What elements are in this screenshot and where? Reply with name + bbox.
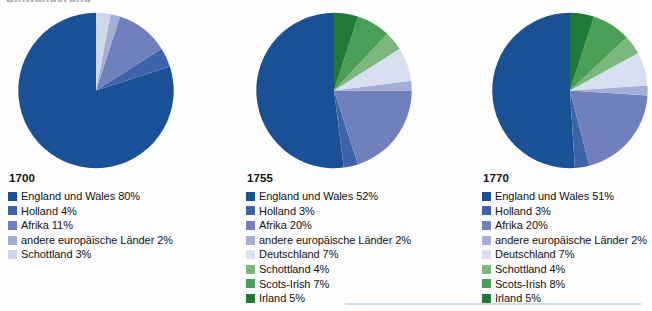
legend-item-label: Scots-Irish 8% (495, 277, 565, 292)
legend-item-label: Deutschland 7% (495, 247, 574, 262)
pie-slice[interactable] (492, 13, 575, 168)
legend-item[interactable]: Scots-Irish 7% (246, 277, 451, 292)
legend-swatch-icon (246, 236, 255, 245)
legend-item[interactable]: Deutschland 7% (246, 247, 451, 262)
legend-item-label: Afrika 11% (21, 218, 73, 233)
legend-swatch-icon (246, 279, 255, 288)
legend-swatch-icon (246, 250, 255, 259)
legend-item[interactable]: Afrika 11% (8, 218, 213, 233)
pie-chart-1770 (488, 12, 652, 169)
pie-svg-1700 (14, 12, 178, 169)
legend-1755: 1755 England und Wales 52%Holland 3%Afri… (246, 172, 451, 306)
pie-svg-1755 (252, 12, 416, 169)
legend-swatch-icon (246, 221, 255, 230)
legend-swatch-icon (482, 279, 491, 288)
pie-svg-1770 (488, 12, 652, 169)
legend-item-label: England und Wales 80% (21, 189, 140, 204)
legend-title: 1770 (483, 172, 652, 184)
legend-item-label: Schottland 4% (259, 262, 329, 277)
legend-1700: 1700 England und Wales 80%Holland 4%Afri… (8, 172, 213, 262)
legend-swatch-icon (8, 250, 17, 259)
pie-chart-1700 (14, 12, 178, 169)
legend-item[interactable]: andere europäische Länder 2% (246, 233, 451, 248)
legend-item-label: Irland 5% (259, 291, 305, 306)
legend-item-label: Afrika 20% (495, 218, 548, 233)
legend-item[interactable]: Holland 4% (8, 204, 213, 219)
legend-item-label: andere europäische Länder 2% (495, 233, 647, 248)
pie-slice[interactable] (256, 13, 343, 168)
legend-item-label: Schottland 3% (21, 247, 91, 262)
legend-item-label: Deutschland 7% (259, 247, 338, 262)
legend-swatch-icon (8, 206, 17, 215)
legend-list: England und Wales 52%Holland 3%Afrika 20… (246, 189, 451, 306)
legend-swatch-icon (482, 250, 491, 259)
legend-title: 1755 (247, 172, 451, 184)
legend-item[interactable]: andere europäische Länder 2% (8, 233, 213, 248)
legend-swatch-icon (482, 192, 491, 201)
legend-item-label: England und Wales 52% (259, 189, 378, 204)
legend-swatch-icon (482, 236, 491, 245)
legend-swatch-icon (246, 265, 255, 274)
legend-item[interactable]: andere europäische Länder 2% (482, 233, 652, 248)
chart-panel-1700: 1700 England und Wales 80%Holland 4%Afri… (0, 0, 213, 311)
legend-item[interactable]: Holland 3% (246, 204, 451, 219)
legend-item-label: Scots-Irish 7% (259, 277, 329, 292)
legend-item[interactable]: Schottland 4% (482, 262, 652, 277)
legend-list: England und Wales 80%Holland 4%Afrika 11… (8, 189, 213, 262)
legend-item[interactable]: Afrika 20% (246, 218, 451, 233)
legend-item-label: Afrika 20% (259, 218, 312, 233)
legend-swatch-icon (8, 192, 17, 201)
legend-item[interactable]: Schottland 3% (8, 247, 213, 262)
pie-chart-1755 (252, 12, 416, 169)
legend-swatch-icon (8, 221, 17, 230)
legend-item[interactable]: Holland 3% (482, 204, 652, 219)
chart-panel-1755: 1755 England und Wales 52%Holland 3%Afri… (238, 0, 451, 311)
legend-item[interactable]: Afrika 20% (482, 218, 652, 233)
legend-item-label: andere europäische Länder 2% (259, 233, 411, 248)
legend-swatch-icon (8, 236, 17, 245)
legend-swatch-icon (482, 206, 491, 215)
chart-panel-1770: 1770 England und Wales 51%Holland 3%Afri… (474, 0, 652, 311)
legend-swatch-icon (482, 221, 491, 230)
legend-item[interactable]: Scots-Irish 8% (482, 277, 652, 292)
legend-swatch-icon (246, 294, 255, 303)
legend-item-label: andere europäische Länder 2% (21, 233, 173, 248)
legend-item[interactable]: England und Wales 52% (246, 189, 451, 204)
legend-item[interactable]: Schottland 4% (246, 262, 451, 277)
legend-list: England und Wales 51%Holland 3%Afrika 20… (482, 189, 652, 306)
legend-item-label: Schottland 4% (495, 262, 565, 277)
legend-title: 1700 (9, 172, 213, 184)
legend-swatch-icon (246, 192, 255, 201)
legend-swatch-icon (246, 206, 255, 215)
legend-item[interactable]: England und Wales 51% (482, 189, 652, 204)
legend-swatch-icon (482, 294, 491, 303)
legend-item[interactable]: Deutschland 7% (482, 247, 652, 262)
legend-item-label: England und Wales 51% (495, 189, 614, 204)
legend-1770: 1770 England und Wales 51%Holland 3%Afri… (482, 172, 652, 306)
legend-item-label: Holland 3% (495, 204, 551, 219)
legend-item-label: Holland 3% (259, 204, 315, 219)
legend-swatch-icon (482, 265, 491, 274)
legend-item[interactable]: England und Wales 80% (8, 189, 213, 204)
bottom-divider (345, 303, 641, 305)
legend-item-label: Holland 4% (21, 204, 77, 219)
